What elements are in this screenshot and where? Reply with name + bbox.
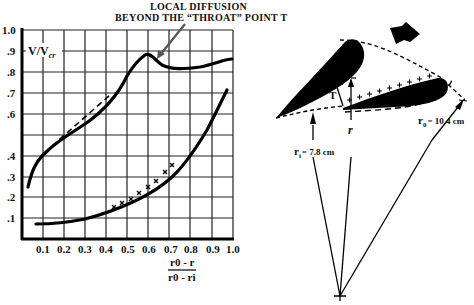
ri-label: ri= 7.8 cm	[294, 145, 335, 160]
radius-lines	[313, 102, 462, 296]
x-tick: 0.2	[57, 243, 71, 255]
measured-points	[112, 163, 174, 209]
lower-curve-solid	[36, 90, 227, 224]
annotation-line-2: BEYOND THE “THROAT” POINT T	[115, 12, 287, 23]
ri-arrow-head	[310, 112, 316, 124]
x-label-denominator: r0 - ri	[168, 271, 195, 283]
throat-line	[336, 84, 343, 106]
y-tick: 1.0	[2, 24, 16, 36]
annotation-line-1: LOCAL DIFFUSION	[150, 1, 247, 12]
r-label: r	[348, 123, 353, 137]
y-tick: .9	[7, 45, 16, 57]
x-tick: 0.9	[206, 243, 220, 255]
x-tick: 0.1	[36, 243, 50, 255]
y-tick: .8	[7, 66, 16, 78]
blade-diagram: T r ri= 7.8 cm r0= 10.4 cm	[276, 22, 467, 301]
upper-curve-dashed	[52, 95, 110, 146]
annotation-arrow	[157, 24, 185, 59]
chart: 1.0 .9 .8 .7 .6 .4 .3 .2 .1 V/Vcr 0.1 0.…	[2, 1, 287, 283]
x-label-numerator: r0 - r	[170, 256, 195, 268]
x-tick: 0.3	[78, 243, 92, 255]
figure-canvas: 1.0 .9 .8 .7 .6 .4 .3 .2 .1 V/Vcr 0.1 0.…	[0, 0, 474, 305]
y-tick: .7	[7, 87, 16, 99]
y-tick: .3	[7, 171, 16, 183]
x-tick: 1.0	[226, 243, 240, 255]
y-tick: .1	[7, 212, 15, 224]
y-tick: .6	[7, 108, 16, 120]
upper-curve-solid	[28, 54, 232, 187]
throat-label: T	[329, 89, 337, 101]
y-tick: .4	[7, 150, 16, 162]
ro-label: r0= 10.4 cm	[418, 114, 465, 129]
center-mark	[334, 291, 346, 301]
y-tick: .2	[7, 191, 16, 203]
x-tick: 0.7	[164, 243, 178, 255]
y-tick-labels: 1.0 .9 .8 .7 .6 .4 .3 .2 .1	[2, 24, 16, 224]
x-tick: 0.4	[99, 243, 113, 255]
blade-2	[343, 78, 448, 110]
x-tick: 0.5	[121, 243, 135, 255]
x-tick: 0.8	[184, 243, 198, 255]
chart-grid	[22, 30, 233, 239]
x-tick-labels: 0.1 0.2 0.3 0.4 0.5 0.6 0.7 0.8 0.9 1.0	[36, 243, 240, 255]
x-tick: 0.6	[142, 243, 156, 255]
flow-direction-arrow	[390, 22, 420, 44]
x-axis-label: r0 - r r0 - ri	[168, 256, 196, 283]
